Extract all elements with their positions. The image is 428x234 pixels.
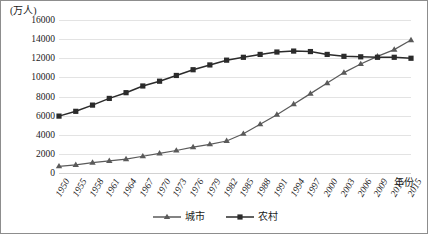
legend-item-城市[interactable]: 城市 — [152, 211, 205, 223]
x-axis-tick: 1970 — [154, 177, 172, 198]
x-axis-tick: 1967 — [137, 177, 155, 198]
data-point-marker — [56, 114, 61, 119]
x-axis-tick: 1988 — [255, 177, 273, 198]
data-point-marker — [308, 49, 313, 54]
legend-item-农村[interactable]: 农村 — [225, 211, 278, 223]
data-point-marker — [157, 79, 162, 84]
x-axis-tick: 2003 — [338, 177, 356, 198]
data-point-marker — [224, 58, 229, 63]
data-point-marker — [408, 56, 413, 61]
x-axis-tick: 1973 — [171, 177, 189, 198]
x-axis-tick: 1979 — [204, 177, 222, 198]
chart-figure: (万人) 02000400060008000100001200014000160… — [0, 0, 428, 234]
data-point-marker — [291, 48, 296, 53]
x-axis-tick: 1991 — [271, 177, 289, 198]
y-axis-tick: 4000 — [36, 130, 55, 140]
x-axis-tick: 1964 — [121, 177, 139, 198]
x-axis-tick: 2009 — [372, 177, 390, 198]
y-axis-tick: 12000 — [31, 53, 55, 63]
data-point-marker — [274, 111, 280, 116]
x-axis-tick: 1950 — [54, 177, 72, 198]
chart-legend: 城市农村 — [1, 211, 428, 223]
data-point-marker — [325, 52, 330, 57]
legend-swatch-triangle-icon — [152, 212, 182, 222]
y-axis-tick: 6000 — [36, 111, 55, 121]
series-line — [59, 51, 411, 116]
data-point-marker — [290, 101, 296, 106]
data-point-marker — [90, 103, 95, 108]
data-point-marker — [174, 73, 179, 78]
x-axis-tick: 1982 — [221, 177, 239, 198]
y-axis-tick: 10000 — [31, 72, 55, 82]
legend-label: 农村 — [258, 211, 278, 223]
x-axis-tick: 2000 — [322, 177, 340, 198]
plot-area — [59, 20, 411, 173]
data-point-marker — [358, 54, 363, 59]
y-axis-tick: 0 — [50, 168, 55, 178]
data-point-marker — [307, 90, 313, 95]
x-axis-tick: 1961 — [104, 177, 122, 198]
x-axis-tick: 1958 — [87, 177, 105, 198]
data-point-marker — [274, 49, 279, 54]
data-point-marker — [237, 214, 242, 219]
data-point-marker — [392, 55, 397, 60]
x-axis-tick: 2006 — [355, 177, 373, 198]
data-point-marker — [207, 62, 212, 67]
x-axis-tick: 1976 — [188, 177, 206, 198]
series-layer — [59, 20, 411, 173]
data-point-marker — [123, 90, 128, 95]
y-axis-tick-labels: 0200040006000800010000120001400016000 — [1, 20, 55, 173]
data-point-marker — [140, 83, 145, 88]
data-point-marker — [324, 80, 330, 85]
data-point-marker — [341, 54, 346, 59]
x-axis-tick: 1955 — [70, 177, 88, 198]
x-axis-title: 年份 — [394, 177, 414, 189]
y-axis-tick: 8000 — [36, 92, 55, 102]
x-axis-tick: 1985 — [238, 177, 256, 198]
x-axis-tick: 1997 — [305, 177, 323, 198]
series-农村 — [56, 48, 413, 118]
data-point-marker — [73, 109, 78, 114]
legend-swatch-square-icon — [225, 212, 255, 222]
x-axis-tick: 1994 — [288, 177, 306, 198]
data-point-marker — [375, 55, 380, 60]
data-point-marker — [107, 96, 112, 101]
legend-label: 城市 — [185, 211, 205, 223]
data-point-marker — [408, 37, 414, 42]
data-point-marker — [241, 55, 246, 60]
data-point-marker — [190, 67, 195, 72]
y-axis-tick: 2000 — [36, 149, 55, 159]
y-axis-tick: 16000 — [31, 15, 55, 25]
y-axis-tick: 14000 — [31, 34, 55, 44]
data-point-marker — [258, 52, 263, 57]
